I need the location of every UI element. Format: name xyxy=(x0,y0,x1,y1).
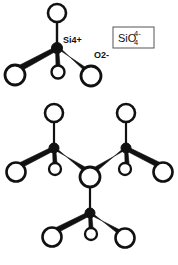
oxygen-atom-apex xyxy=(48,4,66,22)
diagram-canvas: Si4+ O2- SiO 4 4- xyxy=(0,0,178,265)
oxygen-atom-front-right xyxy=(81,66,101,86)
oxygen-atom-front-left xyxy=(5,65,25,85)
silicon-atom-left xyxy=(49,143,59,153)
oxygen-atom-left-back xyxy=(49,163,61,175)
oxygen-atom-left-front-left xyxy=(7,163,26,182)
oxygen-atom-right-top xyxy=(117,104,135,122)
label-oxygen-anion: O2- xyxy=(94,50,109,60)
silicon-atom-center xyxy=(52,43,63,54)
formula-subscript: 4 xyxy=(134,38,138,47)
formula-superscript: 4- xyxy=(134,29,141,38)
oxygen-atom-right-front-right xyxy=(154,163,173,182)
oxygen-atom-bottom-front-right xyxy=(116,229,135,248)
oxygen-atom-bridging-shared xyxy=(80,167,100,187)
silicon-atom-bottom xyxy=(85,208,95,218)
oxygen-atom-left-top xyxy=(45,104,63,122)
formula-box: SiO 4 4- xyxy=(113,27,154,48)
oxygen-atom-bottom-back xyxy=(85,228,97,240)
oxygen-atom-bottom-front-left xyxy=(43,228,62,247)
silicon-atom-right xyxy=(121,143,131,153)
oxygen-atom-right-back xyxy=(119,163,131,175)
panel-linked-tetrahedra xyxy=(7,104,173,248)
silicate-structure-figure: Si4+ O2- SiO 4 4- xyxy=(0,0,178,265)
oxygen-atom-back xyxy=(52,66,65,79)
label-silicon-cation: Si4+ xyxy=(63,35,82,45)
panel-isolated-tetrahedron: Si4+ O2- xyxy=(5,4,109,86)
